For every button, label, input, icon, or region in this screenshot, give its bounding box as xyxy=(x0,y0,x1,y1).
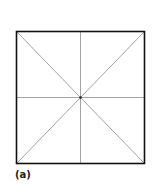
figure-label: (a) xyxy=(15,169,31,180)
square-symmetry-diagram xyxy=(0,0,156,185)
center-dot xyxy=(79,96,81,98)
